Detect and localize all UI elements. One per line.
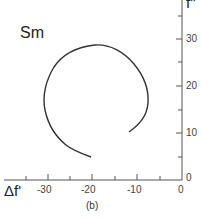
x-axis-title: Δf' xyxy=(4,182,21,199)
sm-curve xyxy=(44,45,148,157)
y-tick-label: 10 xyxy=(186,127,197,138)
x-tick-label: -30 xyxy=(37,184,51,195)
figure-caption: (b) xyxy=(86,200,98,211)
y-axis-title: f" xyxy=(186,0,196,11)
x-tick-label: -10 xyxy=(127,184,141,195)
y-tick-label: 30 xyxy=(186,33,197,44)
x-ticks xyxy=(26,174,160,180)
x-tick-label: -20 xyxy=(81,184,95,195)
y-tick-label: 20 xyxy=(186,80,197,91)
x-tick-label: 0 xyxy=(178,184,184,195)
y-tick-label: 0 xyxy=(186,172,192,183)
y-ticks xyxy=(176,16,182,157)
panel-title: Sm xyxy=(20,24,44,42)
